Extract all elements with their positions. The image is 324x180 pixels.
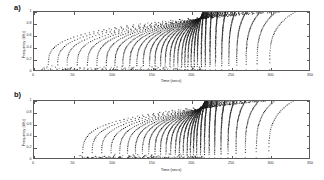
- x-tick: [192, 156, 193, 159]
- x-tick-top: [232, 12, 233, 15]
- x-tick-top: [153, 12, 154, 15]
- x-tick: [192, 68, 193, 71]
- panel-b-scatter-markers: [34, 101, 309, 158]
- x-tick-label: 200: [188, 73, 194, 77]
- panel-a-label: a): [14, 3, 21, 12]
- x-tick-label: 300: [267, 161, 273, 165]
- y-tick-right: [307, 136, 310, 137]
- y-tick-right: [307, 113, 310, 114]
- y-tick: [34, 113, 37, 114]
- y-tick: [34, 101, 37, 102]
- y-tick-right: [307, 125, 310, 126]
- x-tick-label: 50: [71, 161, 75, 165]
- x-tick-top: [271, 101, 272, 104]
- x-tick: [271, 156, 272, 159]
- x-tick-label: 100: [109, 73, 115, 77]
- y-tick: [34, 60, 37, 61]
- y-tick-label: 1: [24, 98, 32, 102]
- y-tick-right: [307, 48, 310, 49]
- x-tick-label: 350: [307, 161, 313, 165]
- y-tick: [34, 24, 37, 25]
- x-tick-label: 100: [109, 161, 115, 165]
- x-tick-top: [113, 12, 114, 15]
- y-tick-label: 0.8: [24, 21, 32, 25]
- x-tick-top: [74, 101, 75, 104]
- x-tick: [74, 156, 75, 159]
- y-tick: [34, 148, 37, 149]
- x-tick-label: 150: [149, 161, 155, 165]
- panel-a-plot-area: [33, 11, 310, 71]
- panel-a-yaxis-title: Frequency (kHz): [22, 31, 26, 58]
- x-tick-top: [192, 101, 193, 104]
- x-tick-top: [113, 101, 114, 104]
- y-tick-right: [307, 101, 310, 102]
- y-tick: [34, 125, 37, 126]
- y-tick-right: [307, 60, 310, 61]
- x-tick-label: 0: [32, 161, 34, 165]
- y-tick-label: 0.8: [24, 110, 32, 114]
- x-tick-top: [271, 12, 272, 15]
- x-tick: [113, 156, 114, 159]
- x-tick: [232, 68, 233, 71]
- y-tick-label: 0: [24, 69, 32, 73]
- x-tick: [271, 68, 272, 71]
- panel-b-xaxis-title: Time (secs): [161, 167, 182, 172]
- x-tick-top: [192, 12, 193, 15]
- y-tick-right: [307, 36, 310, 37]
- panel-b-plot-area: [33, 100, 310, 159]
- y-tick-label: 1: [24, 9, 32, 13]
- x-tick-top: [153, 101, 154, 104]
- y-tick: [34, 136, 37, 137]
- x-tick-label: 200: [188, 161, 194, 165]
- x-tick: [232, 156, 233, 159]
- x-tick-label: 0: [32, 73, 34, 77]
- x-tick: [34, 68, 35, 71]
- y-tick-right: [307, 148, 310, 149]
- x-tick-label: 150: [149, 73, 155, 77]
- x-tick: [153, 68, 154, 71]
- x-tick-label: 350: [307, 73, 313, 77]
- x-tick-label: 300: [267, 73, 273, 77]
- panel-a: a) 05010015020025030035000.20.40.60.81 T…: [0, 0, 324, 90]
- panel-a-scatter-markers: [34, 12, 309, 70]
- x-tick-label: 50: [71, 73, 75, 77]
- y-tick: [34, 12, 37, 13]
- x-tick: [74, 68, 75, 71]
- panel-a-xaxis-title: Time (secs): [161, 78, 182, 83]
- y-tick-label: 0: [24, 157, 32, 161]
- x-tick: [153, 156, 154, 159]
- y-tick-right: [307, 24, 310, 25]
- x-tick-top: [232, 101, 233, 104]
- x-tick: [34, 156, 35, 159]
- x-tick-label: 250: [228, 161, 234, 165]
- x-tick-label: 250: [228, 73, 234, 77]
- x-tick: [113, 68, 114, 71]
- panel-b: b) 05010015020025030035000.20.40.60.81 T…: [0, 88, 324, 180]
- x-tick-top: [74, 12, 75, 15]
- y-tick: [34, 48, 37, 49]
- panel-b-yaxis-title: Frequency (kHz): [22, 119, 26, 146]
- y-tick-right: [307, 12, 310, 13]
- figure-canvas: a) 05010015020025030035000.20.40.60.81 T…: [0, 0, 324, 180]
- y-tick: [34, 36, 37, 37]
- panel-b-label: b): [14, 90, 21, 99]
